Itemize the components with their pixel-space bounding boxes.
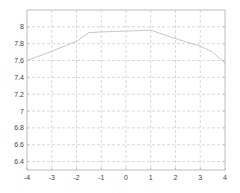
line-chart: -4-3-2-101234 6.46.66.877.27.47.67.88: [0, 0, 240, 193]
grid-lines: [27, 10, 225, 170]
y-tick-label: 6.6: [14, 141, 24, 148]
x-tick-label: -2: [73, 174, 79, 181]
y-tick-label: 7.4: [14, 74, 24, 81]
x-tick-label: 0: [124, 174, 128, 181]
y-tick-label: 8: [20, 23, 24, 30]
y-tick-label: 7.2: [14, 91, 24, 98]
x-tick-label: -4: [24, 174, 30, 181]
x-tick-label: 3: [198, 174, 202, 181]
x-tick-label: -1: [98, 174, 104, 181]
x-tick-label: 4: [223, 174, 227, 181]
y-tick-label: 7.6: [14, 57, 24, 64]
x-tick-label: 2: [174, 174, 178, 181]
x-tick-label: 1: [149, 174, 153, 181]
y-tick-label: 6.8: [14, 124, 24, 131]
x-tick-label: -3: [49, 174, 55, 181]
y-tick-label: 6.4: [14, 158, 24, 165]
y-tick-label: 7.8: [14, 40, 24, 47]
y-tick-label: 7: [20, 108, 24, 115]
